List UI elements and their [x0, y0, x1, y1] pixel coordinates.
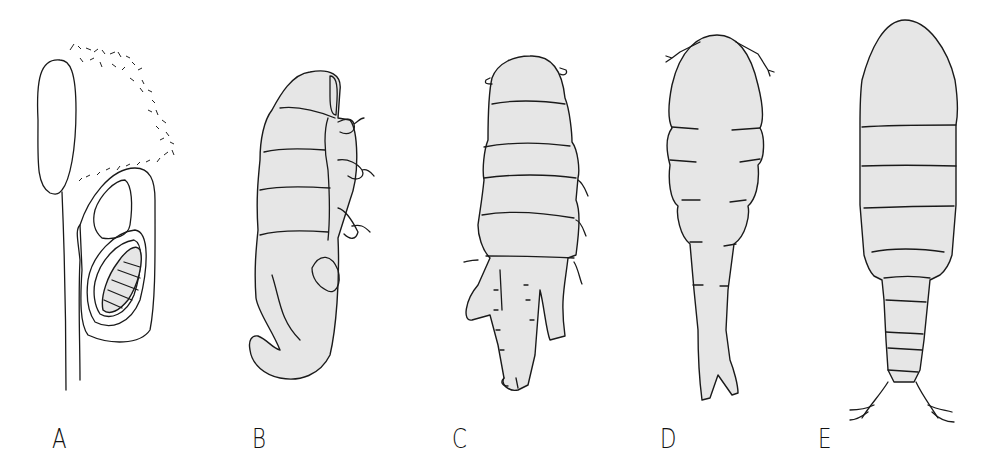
panel-label-b: B: [252, 424, 266, 454]
panel-d: D: [600, 0, 800, 466]
panel-d-illustration: [600, 0, 800, 466]
panel-a: A: [0, 0, 220, 466]
panel-label-a: A: [52, 424, 67, 454]
panel-label-e: E: [818, 424, 831, 454]
panel-e-illustration: [780, 0, 994, 466]
panel-a-illustration: [0, 0, 220, 466]
panel-label-c: C: [452, 424, 467, 454]
panel-c: C: [420, 0, 620, 466]
panel-b: B: [220, 0, 420, 466]
panel-b-illustration: [220, 0, 420, 466]
panel-c-illustration: [420, 0, 620, 466]
panel-e: E: [780, 0, 994, 466]
panel-label-d: D: [660, 424, 676, 454]
